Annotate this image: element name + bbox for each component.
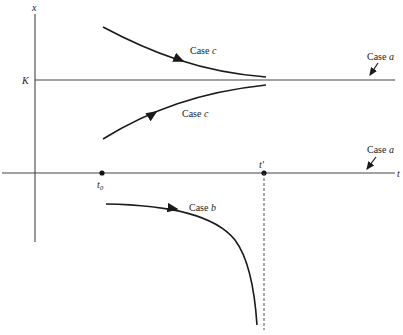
- case-a-lower-arrow-icon: [367, 157, 376, 169]
- case-c-upper-curve: [103, 27, 266, 77]
- t0-label: t0: [97, 179, 104, 192]
- x-axis-label: x: [31, 2, 37, 13]
- case-b-curve: [106, 204, 257, 325]
- case-a-upper-arrow-icon: [370, 63, 378, 75]
- case-a-lower-label: Case a: [367, 144, 394, 155]
- case-b-label: Case b: [189, 202, 216, 213]
- k-label: K: [21, 75, 30, 86]
- case-a-upper-label: Case a: [367, 51, 394, 62]
- case-b-arrow-icon: [170, 208, 177, 209]
- t-axis-label: t: [397, 168, 400, 179]
- t-prime-label: t′: [259, 159, 265, 170]
- case-c-upper-label: Case c: [190, 45, 217, 56]
- case-c-lower-label: Case c: [182, 108, 209, 119]
- phase-diagram: x t K t0 t′ Case c Case c Case a Case a …: [0, 0, 403, 335]
- t0-point: [99, 170, 104, 175]
